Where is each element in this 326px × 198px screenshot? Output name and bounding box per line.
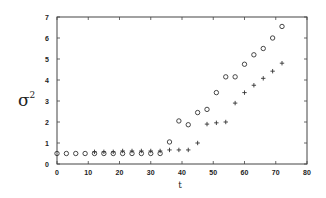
plus-marker [205, 122, 209, 126]
y-tick-label: 5 [45, 56, 49, 63]
plus-marker [252, 83, 256, 87]
plus-marker [92, 150, 96, 154]
plus-marker [224, 120, 228, 124]
y-tick-label: 1 [45, 140, 49, 147]
plot-frame [57, 17, 307, 164]
plus-marker [214, 121, 218, 125]
y-axis-label-sigma: σ [18, 90, 30, 110]
plus-marker [261, 76, 265, 80]
x-tick-label: 30 [147, 169, 155, 176]
x-tick-label: 50 [209, 169, 217, 176]
x-tick-label: 20 [116, 169, 124, 176]
plus-marker [280, 61, 284, 65]
x-tick-label: 0 [55, 169, 59, 176]
circle-marker [242, 62, 246, 66]
plus-marker [102, 150, 106, 154]
x-tick-label: 40 [178, 169, 186, 176]
y-tick-label: 4 [45, 77, 49, 84]
plus-marker [233, 101, 237, 105]
circle-marker [74, 151, 78, 155]
circle-marker [205, 107, 209, 111]
circle-marker [261, 46, 265, 50]
y-axis-label: σ2 [18, 90, 35, 110]
y-tick-label: 6 [45, 35, 49, 42]
plus-marker [195, 141, 199, 145]
data-series [55, 24, 284, 155]
x-tick-label: 10 [84, 169, 92, 176]
circle-marker [83, 151, 87, 155]
circle-marker [177, 119, 181, 123]
plus-marker [167, 148, 171, 152]
plus-marker [270, 69, 274, 73]
y-axis-ticks: 01234567 [45, 14, 307, 168]
circle-marker [167, 140, 171, 144]
circle-marker [64, 151, 68, 155]
plus-marker [242, 90, 246, 94]
x-tick-label: 70 [272, 169, 280, 176]
circle-marker [270, 36, 274, 40]
y-tick-label: 0 [45, 161, 49, 168]
series-plus [92, 61, 284, 154]
circle-marker [252, 53, 256, 57]
circle-marker [224, 75, 228, 79]
y-tick-label: 2 [45, 119, 49, 126]
series-circles [55, 24, 284, 155]
plus-marker [177, 148, 181, 152]
plus-marker [111, 150, 115, 154]
plot-border [57, 17, 307, 164]
circle-marker [233, 75, 237, 79]
x-axis-label: t [178, 180, 182, 190]
plus-marker [186, 148, 190, 152]
circle-marker [214, 90, 218, 94]
x-tick-label: 60 [241, 169, 249, 176]
y-tick-label: 7 [45, 14, 49, 21]
y-axis-label-sup: 2 [30, 90, 36, 100]
circle-marker [195, 110, 199, 114]
y-tick-label: 3 [45, 98, 49, 105]
circle-marker [186, 123, 190, 127]
scatter-chart: 01234567 01020304050607080 t σ2 [0, 0, 326, 198]
circle-marker [280, 24, 284, 28]
x-tick-label: 80 [303, 169, 311, 176]
